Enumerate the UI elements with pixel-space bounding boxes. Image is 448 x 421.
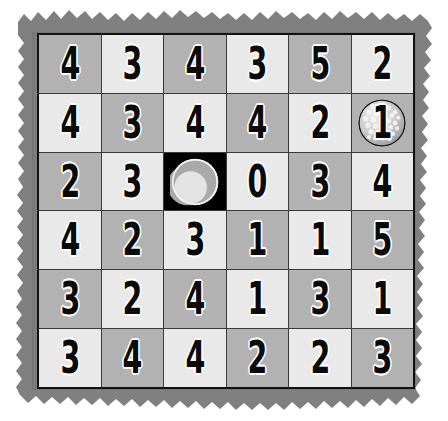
grid-cell-r3c2[interactable]: 3 bbox=[102, 153, 164, 211]
grid-cell-r4c5[interactable]: 1 bbox=[289, 211, 351, 269]
cell-number: 2 bbox=[123, 277, 142, 322]
cell-number: 2 bbox=[310, 100, 329, 145]
cell-number: 3 bbox=[248, 42, 267, 87]
cell-number: 1 bbox=[248, 218, 267, 263]
grid-cell-r1c3[interactable]: 4 bbox=[164, 35, 226, 93]
grid-cell-r2c2[interactable]: 3 bbox=[102, 94, 164, 152]
cell-number: 1 bbox=[373, 100, 392, 145]
cell-number: 4 bbox=[185, 42, 204, 87]
grid-cell-r1c5[interactable]: 5 bbox=[289, 35, 351, 93]
grid-cell-r3c1[interactable]: 2 bbox=[39, 153, 101, 211]
grid-cell-r5c5[interactable]: 3 bbox=[289, 270, 351, 328]
grid-cell-r1c6[interactable]: 2 bbox=[352, 35, 414, 93]
cell-number: 3 bbox=[310, 277, 329, 322]
grid-frame: 43435243442123034423115324131344223 bbox=[37, 33, 415, 389]
cell-number: 3 bbox=[60, 336, 79, 381]
cell-number: 4 bbox=[373, 159, 392, 204]
grid-cell-r6c6[interactable]: 3 bbox=[352, 329, 414, 387]
cell-number: 4 bbox=[60, 218, 79, 263]
grid-cell-r2c3[interactable]: 4 bbox=[164, 94, 226, 152]
cell-number: 4 bbox=[185, 336, 204, 381]
grid-cell-r5c6[interactable]: 1 bbox=[352, 270, 414, 328]
cell-number: 3 bbox=[310, 159, 329, 204]
grid-cell-r2c4[interactable]: 4 bbox=[227, 94, 289, 152]
cell-number: 2 bbox=[310, 336, 329, 381]
grid-cell-r4c2[interactable]: 2 bbox=[102, 211, 164, 269]
grid-cell-r5c1[interactable]: 3 bbox=[39, 270, 101, 328]
cell-number: 1 bbox=[310, 218, 329, 263]
cell-number: 2 bbox=[373, 42, 392, 87]
grid-cell-r6c1[interactable]: 3 bbox=[39, 329, 101, 387]
grid-cell-r3c6[interactable]: 4 bbox=[352, 153, 414, 211]
grid-cell-r2c1[interactable]: 4 bbox=[39, 94, 101, 152]
cell-number: 5 bbox=[310, 42, 329, 87]
cell-number: 4 bbox=[60, 100, 79, 145]
number-grid[interactable]: 43435243442123034423115324131344223 bbox=[39, 35, 413, 387]
grid-cell-r6c4[interactable]: 2 bbox=[227, 329, 289, 387]
cell-number: 2 bbox=[248, 336, 267, 381]
grid-cell-r3c3[interactable] bbox=[164, 153, 226, 211]
grid-cell-r2c5[interactable]: 2 bbox=[289, 94, 351, 152]
grid-cell-r3c4[interactable]: 0 bbox=[227, 153, 289, 211]
grid-cell-r4c4[interactable]: 1 bbox=[227, 211, 289, 269]
cell-number: 4 bbox=[123, 336, 142, 381]
grid-cell-r3c5[interactable]: 3 bbox=[289, 153, 351, 211]
cell-number: 1 bbox=[373, 277, 392, 322]
cell-number: 3 bbox=[123, 42, 142, 87]
grid-cell-r4c6[interactable]: 5 bbox=[352, 211, 414, 269]
cell-number: 2 bbox=[60, 159, 79, 204]
plain-golf-ball-icon bbox=[170, 157, 220, 207]
cell-number: 2 bbox=[123, 218, 142, 263]
cell-number: 3 bbox=[60, 277, 79, 322]
cell-number: 0 bbox=[248, 159, 267, 204]
cell-number: 4 bbox=[185, 100, 204, 145]
grid-cell-r4c1[interactable]: 4 bbox=[39, 211, 101, 269]
grid-cell-r1c1[interactable]: 4 bbox=[39, 35, 101, 93]
grid-cell-r6c3[interactable]: 4 bbox=[164, 329, 226, 387]
grid-cell-r1c2[interactable]: 3 bbox=[102, 35, 164, 93]
grid-cell-r5c2[interactable]: 2 bbox=[102, 270, 164, 328]
grid-cell-r6c2[interactable]: 4 bbox=[102, 329, 164, 387]
grid-cell-r1c4[interactable]: 3 bbox=[227, 35, 289, 93]
cell-number: 4 bbox=[60, 42, 79, 87]
cell-number: 3 bbox=[185, 218, 204, 263]
grid-cell-r2c6[interactable]: 1 bbox=[352, 94, 414, 152]
puzzle-board-stage: 43435243442123034423115324131344223 bbox=[0, 0, 448, 421]
cell-number: 4 bbox=[248, 100, 267, 145]
cell-number: 4 bbox=[185, 277, 204, 322]
grid-cell-r4c3[interactable]: 3 bbox=[164, 211, 226, 269]
cell-number: 1 bbox=[248, 277, 267, 322]
cell-number: 3 bbox=[123, 100, 142, 145]
grid-cell-r6c5[interactable]: 2 bbox=[289, 329, 351, 387]
cell-number: 3 bbox=[373, 336, 392, 381]
grid-cell-r5c4[interactable]: 1 bbox=[227, 270, 289, 328]
grid-cell-r5c3[interactable]: 4 bbox=[164, 270, 226, 328]
cell-number: 5 bbox=[373, 218, 392, 263]
cell-number: 3 bbox=[123, 159, 142, 204]
